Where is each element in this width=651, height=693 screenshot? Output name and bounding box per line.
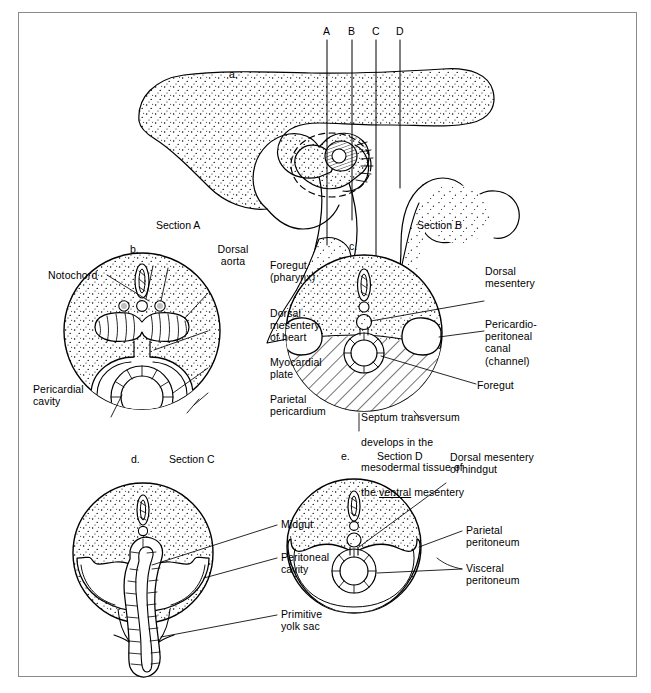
- label-primitive-yolk-sac: Primitive yolk sac: [281, 608, 322, 632]
- label-pericardial-cavity: Pericardial cavity: [33, 383, 84, 407]
- caption-line-1: Septum transversum: [361, 411, 460, 423]
- caption-line-4-post: mesentery: [411, 486, 464, 498]
- caption-line-2: develops in the: [361, 436, 433, 448]
- panel-d-section-c: [73, 483, 277, 677]
- label-dorsal-mesentery: Dorsal mesentery: [485, 265, 535, 289]
- figure-frame: A B C D a. b. c. d. e. Section A Section…: [18, 12, 637, 677]
- label-pericardio-peritoneal-canal: Pericardio- peritoneal canal (channel): [485, 318, 537, 367]
- label-notochord: Notochord: [48, 269, 97, 281]
- label-dorsal-aorta: Dorsal aorta: [209, 243, 257, 267]
- label-midgut: Midgut: [281, 518, 313, 530]
- section-marker-c: C: [372, 25, 380, 37]
- panel-letter-d: d.: [131, 453, 140, 465]
- section-title-c: Section C: [169, 453, 215, 465]
- label-foregut: Foregut: [477, 379, 514, 391]
- section-marker-a: A: [323, 25, 330, 37]
- label-dorsal-mesentery-of-heart: Dorsal mesentery of heart: [270, 307, 320, 344]
- caption-line-3: mesodermal tissue of: [361, 461, 463, 473]
- label-parietal-pericardium: Parietal pericardium: [270, 393, 326, 417]
- label-foregut-pharynx: Foregut (pharynx): [270, 259, 315, 283]
- panel-letter-c: c.: [349, 240, 357, 252]
- label-myocardial-plate: Myocardial plate: [270, 356, 322, 380]
- figure-artwork: [19, 13, 638, 678]
- section-marker-d: D: [396, 25, 404, 37]
- caption-line-4-pre: the: [361, 486, 379, 498]
- caption-line-4-underlined: ventral: [379, 486, 411, 498]
- label-peritoneal-cavity: Peritoneal cavity: [281, 551, 329, 575]
- panel-letter-a: a.: [229, 68, 238, 80]
- section-title-b: Section B: [417, 219, 462, 231]
- panel-letter-b: b.: [130, 243, 139, 255]
- label-dorsal-mesentery-of-hindgut: Dorsal mesentery of hindgut: [450, 451, 534, 475]
- label-visceral-peritoneum: Visceral peritoneum: [466, 562, 520, 586]
- section-title-a: Section A: [156, 219, 200, 231]
- section-marker-b: B: [348, 25, 355, 37]
- label-parietal-peritoneum: Parietal peritoneum: [466, 524, 520, 548]
